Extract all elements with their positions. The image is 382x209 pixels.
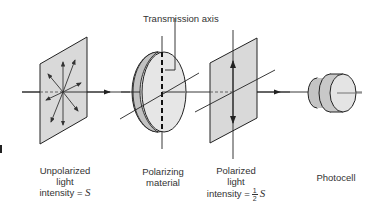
one-half-fraction: 12 [252,187,258,202]
polarizer-disc [120,18,199,149]
photocell-icon [308,74,362,112]
unpolarized-label: Unpolarized light intensity = S [30,165,100,198]
polarizing-material-label: Polarizing material [136,166,190,188]
photocell-label: Photocell [308,172,364,183]
polarized-label: Polarized light intensity =12S [199,165,273,202]
polarized-panel [195,30,275,159]
unpolarized-panel [22,37,87,144]
transmission-axis-label: Transmission axis [143,13,219,24]
edge-mark [0,145,2,153]
